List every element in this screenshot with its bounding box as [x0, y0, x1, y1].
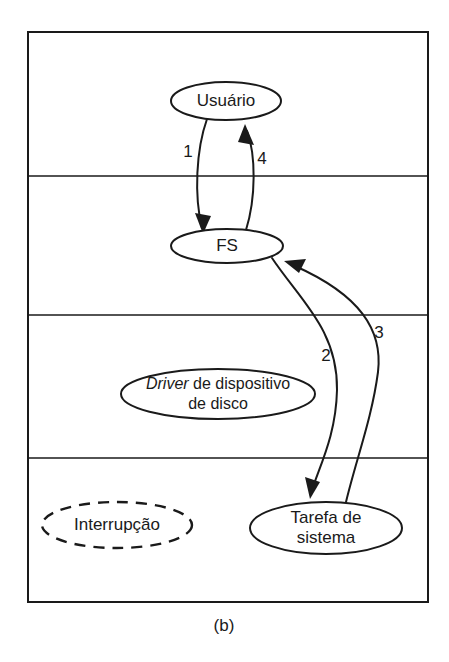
edge-2-path [272, 258, 337, 490]
node-usuario-label: Usuário [197, 91, 256, 110]
node-tarefa-label-line1: Tarefa de [291, 508, 362, 527]
edge-1-path [197, 119, 207, 228]
nodes-group: Usuário FS Driver de dispositivo de disc… [42, 82, 402, 554]
edge-2-arrowhead [305, 477, 320, 499]
edge-4-arrowhead [238, 124, 254, 145]
node-driver-label-line2: de disco [188, 395, 248, 412]
node-fs[interactable]: FS [171, 229, 283, 263]
node-driver-dispositivo-disco[interactable]: Driver de dispositivo de disco [121, 369, 315, 419]
node-interrupcao-label: Interrupção [74, 515, 160, 534]
edge-4-group [238, 124, 254, 230]
edge-label-3: 3 [374, 323, 383, 342]
edge-label-2: 2 [321, 346, 330, 365]
node-driver-label-italic: Driver [146, 375, 189, 392]
edge-4-path [246, 131, 254, 230]
node-driver-label-rest: de dispositivo [189, 375, 290, 392]
node-interrupcao[interactable]: Interrupção [42, 502, 192, 548]
diagram-canvas: 1 4 2 3 Usuário FS Driver de dispositivo [0, 0, 449, 662]
node-tarefa-label-line2: sistema [297, 528, 356, 547]
edge-label-4: 4 [257, 149, 266, 168]
node-tarefa-sistema[interactable]: Tarefa de sistema [250, 502, 402, 554]
edge-3-arrowhead [284, 259, 306, 273]
edge-label-1: 1 [183, 142, 192, 161]
figure-caption: (b) [214, 616, 235, 635]
node-fs-label: FS [216, 236, 238, 255]
node-driver-label-line1: Driver de dispositivo [146, 375, 290, 392]
node-usuario[interactable]: Usuário [171, 82, 281, 120]
figure-root: 1 4 2 3 Usuário FS Driver de dispositivo [0, 0, 449, 662]
